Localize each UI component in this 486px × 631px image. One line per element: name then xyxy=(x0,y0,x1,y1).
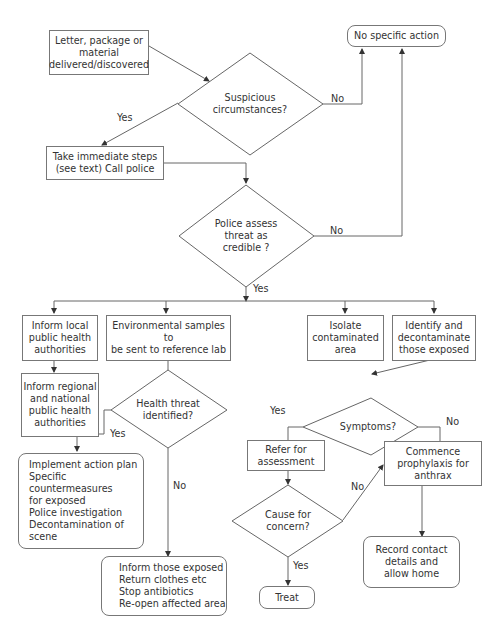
label-police-yes: Yes xyxy=(253,283,269,294)
node-no-action: No specific action xyxy=(347,25,446,47)
node-prophylaxis: Commence prophylaxis for anthrax xyxy=(384,441,482,486)
label-symptoms-yes: Yes xyxy=(270,405,286,416)
node-immediate-steps: Take immediate steps (see text) Call pol… xyxy=(46,146,164,180)
node-identify: Identify and decontaminate those exposed xyxy=(392,315,476,361)
node-start: Letter, package or material delivered/di… xyxy=(49,30,149,75)
decision-health-threat: Health threat identified? xyxy=(136,398,200,422)
node-env-samples: Environmental samples to be sent to refe… xyxy=(106,315,231,361)
label-symptoms-no: No xyxy=(446,416,459,427)
label-suspicious-no: No xyxy=(331,93,344,104)
decision-cause-concern: Cause for concern? xyxy=(265,509,311,533)
node-inform-exposed: Inform those exposed Return clothes etc … xyxy=(101,556,227,616)
node-action-plan: Implement action plan Specific counterme… xyxy=(18,453,144,549)
decision-symptoms: Symptoms? xyxy=(340,421,396,433)
decision-suspicious: Suspicious circumstances? xyxy=(213,92,287,116)
node-treat: Treat xyxy=(259,586,315,609)
label-health-no: No xyxy=(173,480,186,491)
label-suspicious-yes: Yes xyxy=(117,112,133,123)
label-cause-no: No xyxy=(351,481,364,492)
label-police-no: No xyxy=(330,225,343,236)
label-cause-yes: Yes xyxy=(293,560,309,571)
decision-police: Police assess threat as credible ? xyxy=(215,218,278,254)
node-record-contact: Record contact details and allow home xyxy=(363,536,460,588)
node-isolate: Isolate contaminated area xyxy=(307,315,384,361)
node-inform-regional: Inform regional and national public heal… xyxy=(21,373,99,437)
node-inform-local: Inform local public health authorities xyxy=(22,315,98,361)
node-refer: Refer for assessment xyxy=(247,440,325,471)
label-health-yes: Yes xyxy=(110,428,126,439)
